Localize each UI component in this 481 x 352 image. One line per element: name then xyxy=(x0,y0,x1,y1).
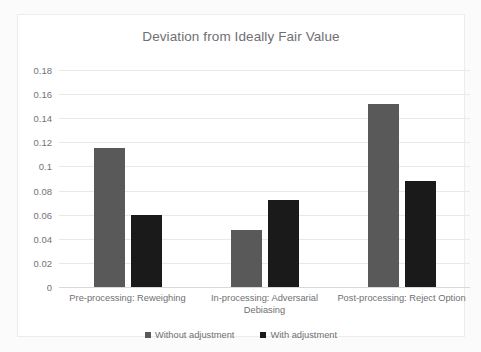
legend-item[interactable]: Without adjustment xyxy=(145,330,235,340)
plot-area: 0.180.160.140.120.10.080.060.040.020 xyxy=(59,70,470,287)
gridline xyxy=(59,118,470,119)
legend-label: Without adjustment xyxy=(155,330,235,340)
category-axis: Pre-processing: ReweighingIn-processing:… xyxy=(59,292,470,326)
bar xyxy=(268,200,299,287)
axis-baseline xyxy=(59,287,470,288)
y-axis-tick-label: 0.1 xyxy=(39,161,52,172)
chart-legend: Without adjustmentWith adjustment xyxy=(18,330,464,340)
y-axis-tick-label: 0.12 xyxy=(34,137,53,148)
category-label: Post-processing: Reject Option xyxy=(333,292,470,304)
category-label: Pre-processing: Reweighing xyxy=(59,292,196,304)
y-axis-tick-label: 0 xyxy=(47,282,52,293)
gridline xyxy=(59,70,470,71)
y-axis-tick-label: 0.08 xyxy=(34,185,53,196)
y-axis-tick-label: 0.16 xyxy=(34,89,53,100)
bar xyxy=(94,148,125,287)
y-axis-tick-label: 0.14 xyxy=(34,113,53,124)
legend-swatch-icon xyxy=(260,332,266,338)
legend-label: With adjustment xyxy=(270,330,337,340)
gridline xyxy=(59,142,470,143)
y-axis-tick-label: 0.02 xyxy=(34,257,53,268)
bar xyxy=(405,181,436,287)
bar xyxy=(131,215,162,287)
y-axis-tick-label: 0.04 xyxy=(34,233,53,244)
y-axis-tick-label: 0.18 xyxy=(34,65,53,76)
chart-title: Deviation from Ideally Fair Value xyxy=(18,29,464,44)
legend-swatch-icon xyxy=(145,332,151,338)
gridline xyxy=(59,94,470,95)
chart-frame: Deviation from Ideally Fair Value 0.180.… xyxy=(17,14,465,337)
y-axis-tick-label: 0.06 xyxy=(34,209,53,220)
category-label: In-processing: Adversarial Debiasing xyxy=(196,292,333,316)
legend-item[interactable]: With adjustment xyxy=(260,330,337,340)
bar xyxy=(231,230,262,287)
bar xyxy=(368,104,399,287)
